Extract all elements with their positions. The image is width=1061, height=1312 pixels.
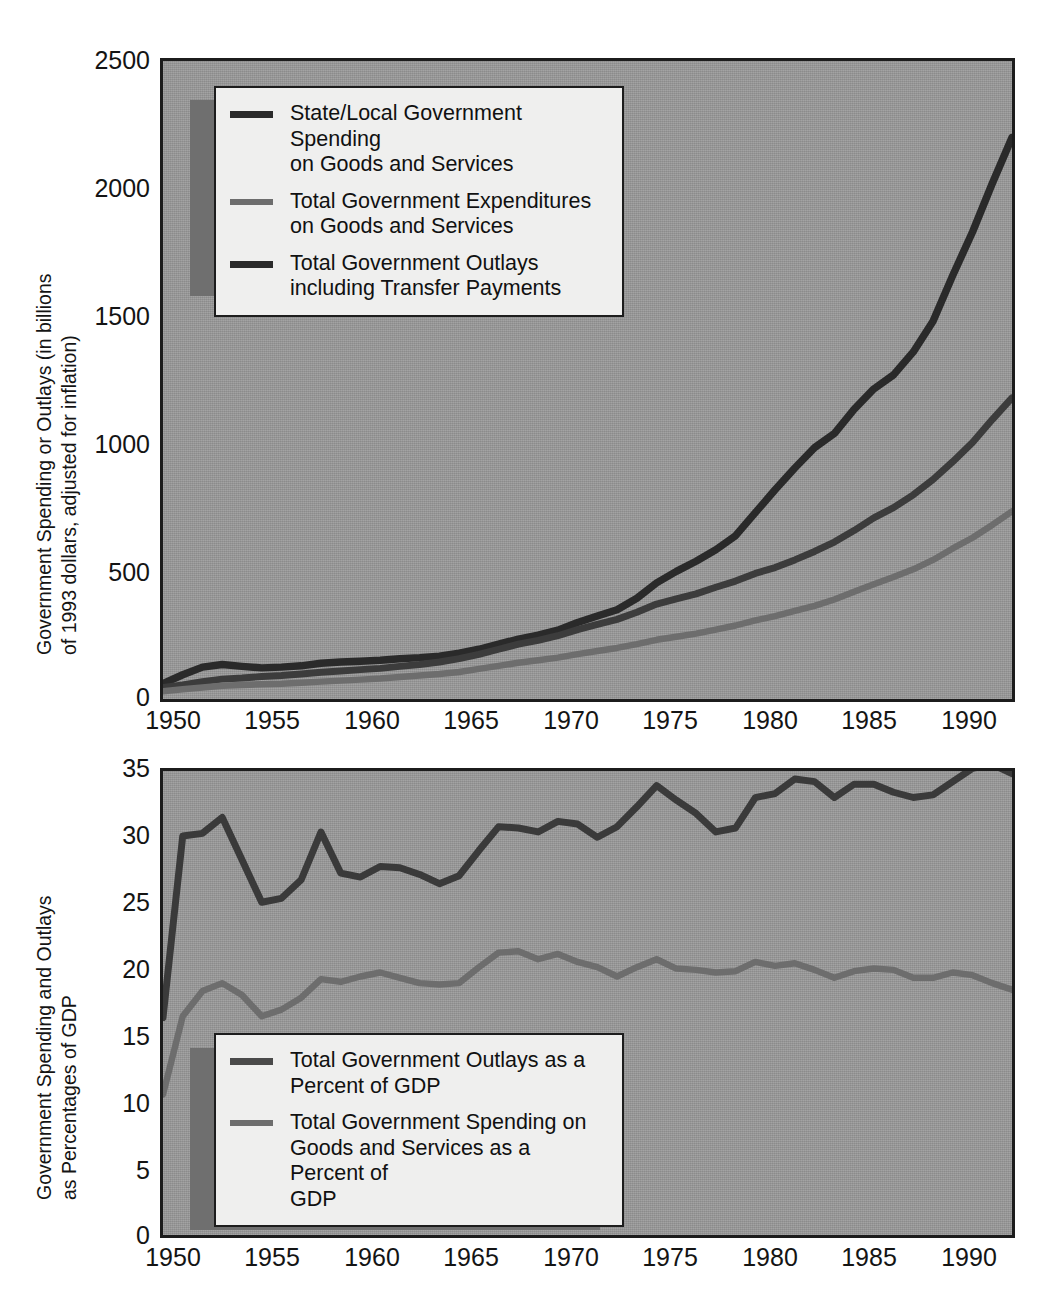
top-chart-ytick-2500: 2500 (58, 48, 150, 73)
legend-swatch-line-icon (230, 261, 273, 268)
legend-item: Total Government Spending on Goods and S… (230, 1110, 606, 1212)
legend-item-label: Total Government Outlays including Trans… (290, 251, 561, 302)
legend-item-label: State/Local Government Spending on Goods… (290, 101, 606, 178)
top-chart-ytick-500: 500 (58, 560, 150, 585)
bottom-chart-xtick-1985: 1985 (814, 1245, 924, 1270)
legend-item-label: Total Government Spending on Goods and S… (290, 1110, 606, 1212)
series-line (163, 771, 1012, 1018)
bottom-chart-ytick-5: 5 (70, 1158, 150, 1183)
series-line (163, 398, 1012, 688)
legend-item: Total Government Outlays including Trans… (230, 251, 606, 302)
top-chart-xtick-1985: 1985 (814, 708, 924, 733)
bottom-chart-ytick-15: 15 (70, 1024, 150, 1049)
legend-swatch-line-icon (230, 199, 273, 205)
top-chart-xtick-1970: 1970 (516, 708, 626, 733)
bottom-chart-xtick-1970: 1970 (516, 1245, 626, 1270)
legend-item: Total Government Outlays as a Percent of… (230, 1048, 606, 1099)
top-chart-ytick-1000: 1000 (58, 432, 150, 457)
top-chart-xtick-1990: 1990 (914, 708, 1024, 733)
bottom-chart-xtick-1955: 1955 (217, 1245, 327, 1270)
top-chart-legend: State/Local Government Spending on Goods… (214, 86, 624, 317)
legend-item-label: Total Government Outlays as a Percent of… (290, 1048, 585, 1099)
bottom-chart-ytick-10: 10 (70, 1091, 150, 1116)
top-chart-xtick-1950: 1950 (118, 708, 228, 733)
legend-item: Total Government Expenditures on Goods a… (230, 189, 606, 240)
top-chart-xtick-1960: 1960 (317, 708, 427, 733)
top-chart-xtick-1955: 1955 (217, 708, 327, 733)
legend-item: State/Local Government Spending on Goods… (230, 101, 606, 178)
bottom-chart-ytick-30: 30 (70, 823, 150, 848)
top-chart-ytick-0: 0 (58, 685, 150, 710)
bottom-chart-ytick-25: 25 (70, 890, 150, 915)
top-chart-ytick-2000: 2000 (58, 176, 150, 201)
bottom-chart-ytick-35: 35 (70, 756, 150, 781)
bottom-chart-xtick-1960: 1960 (317, 1245, 427, 1270)
top-chart-xtick-1975: 1975 (615, 708, 725, 733)
legend-item-label: Total Government Expenditures on Goods a… (290, 189, 591, 240)
legend-swatch-line-icon (230, 1120, 273, 1126)
bottom-chart-ytick-20: 20 (70, 957, 150, 982)
bottom-chart-xtick-1990: 1990 (914, 1245, 1024, 1270)
legend-swatch-line-icon (230, 1058, 273, 1065)
top-chart-ytick-1500: 1500 (58, 304, 150, 329)
bottom-chart-xtick-1965: 1965 (416, 1245, 526, 1270)
legend-swatch-line-icon (230, 111, 273, 118)
bottom-chart-xtick-1975: 1975 (615, 1245, 725, 1270)
top-chart-xtick-1965: 1965 (416, 708, 526, 733)
bottom-chart-xtick-1950: 1950 (118, 1245, 228, 1270)
bottom-chart-legend: Total Government Outlays as a Percent of… (214, 1033, 624, 1227)
figure-root: Government Spending or Outlays (in billi… (0, 0, 1061, 1312)
bottom-chart-xtick-1980: 1980 (715, 1245, 825, 1270)
top-chart-xtick-1980: 1980 (715, 708, 825, 733)
